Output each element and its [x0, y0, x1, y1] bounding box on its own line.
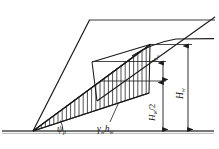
figure-container: ψp γwhw hw Hw/2 Hw [0, 0, 219, 149]
upper-envelope-line [92, 45, 150, 63]
label-gamma-w-h-w: γwhw [97, 125, 113, 136]
upper-envelope-left [92, 62, 97, 101]
label-psi-p: ψp [57, 125, 66, 136]
label-H-w: Hw [176, 88, 187, 99]
label-H-w-half: Hw/2 [148, 104, 158, 121]
left-slope-face [33, 20, 90, 131]
wedge-hatching [37, 0, 146, 149]
leader-line-gamma [110, 104, 118, 122]
label-h-w: hw [152, 55, 161, 62]
